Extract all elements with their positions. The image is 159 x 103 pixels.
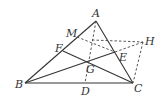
label-f: F [54,42,63,55]
label-d: D [80,85,90,98]
label-e: E [118,51,127,64]
label-c: C [134,82,143,95]
geometry-figure: A B C D E F G H M [0,0,159,103]
segment-hc-dashed [133,42,143,83]
segment-mh-dashed [92,40,143,42]
segment-be [25,52,115,83]
label-a: A [91,7,100,20]
segment-me-dashed [77,37,115,52]
label-b: B [14,78,23,91]
label-h: H [144,35,155,48]
label-g: G [86,63,95,76]
label-m: M [65,27,78,40]
